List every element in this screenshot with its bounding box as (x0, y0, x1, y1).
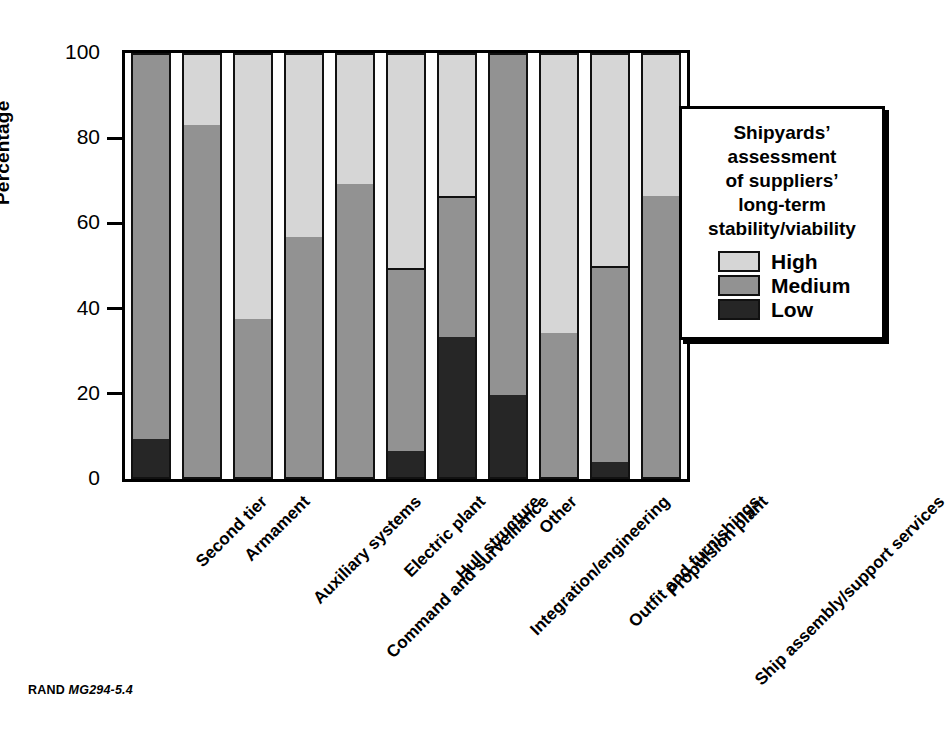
legend-item-medium: Medium (718, 275, 872, 296)
source-organization: RAND (28, 683, 65, 697)
x-axis-label-2: Auxiliary systems (309, 492, 425, 608)
legend-title: Shipyards’assessmentof suppliers’long-te… (692, 121, 872, 241)
legend-title-line-1: assessment (692, 145, 872, 169)
x-axis-label-10: Ship assembly/support services (752, 492, 949, 690)
legend-title-line-3: long-term (692, 193, 872, 217)
legend-item-low: Low (718, 299, 872, 320)
legend-title-line-0: Shipyards’ (692, 121, 872, 145)
legend-swatch-low-icon (718, 299, 760, 320)
legend-label-low: Low (771, 299, 813, 320)
legend-label-medium: Medium (771, 275, 850, 296)
legend-swatch-medium-icon (718, 275, 760, 296)
legend-title-line-2: of suppliers’ (692, 169, 872, 193)
legend-item-high: High (718, 251, 872, 272)
legend-label-high: High (771, 251, 818, 272)
legend-swatch-high-icon (718, 251, 760, 272)
source-figure-id: MG294-5.4 (69, 683, 133, 697)
x-axis-label-9: Propulsion plant (664, 492, 773, 601)
chart-legend: Shipyards’assessmentof suppliers’long-te… (679, 106, 885, 340)
figure-source-note: RAND MG294-5.4 (28, 683, 133, 697)
legend-title-line-4: stability/viability (692, 217, 872, 241)
